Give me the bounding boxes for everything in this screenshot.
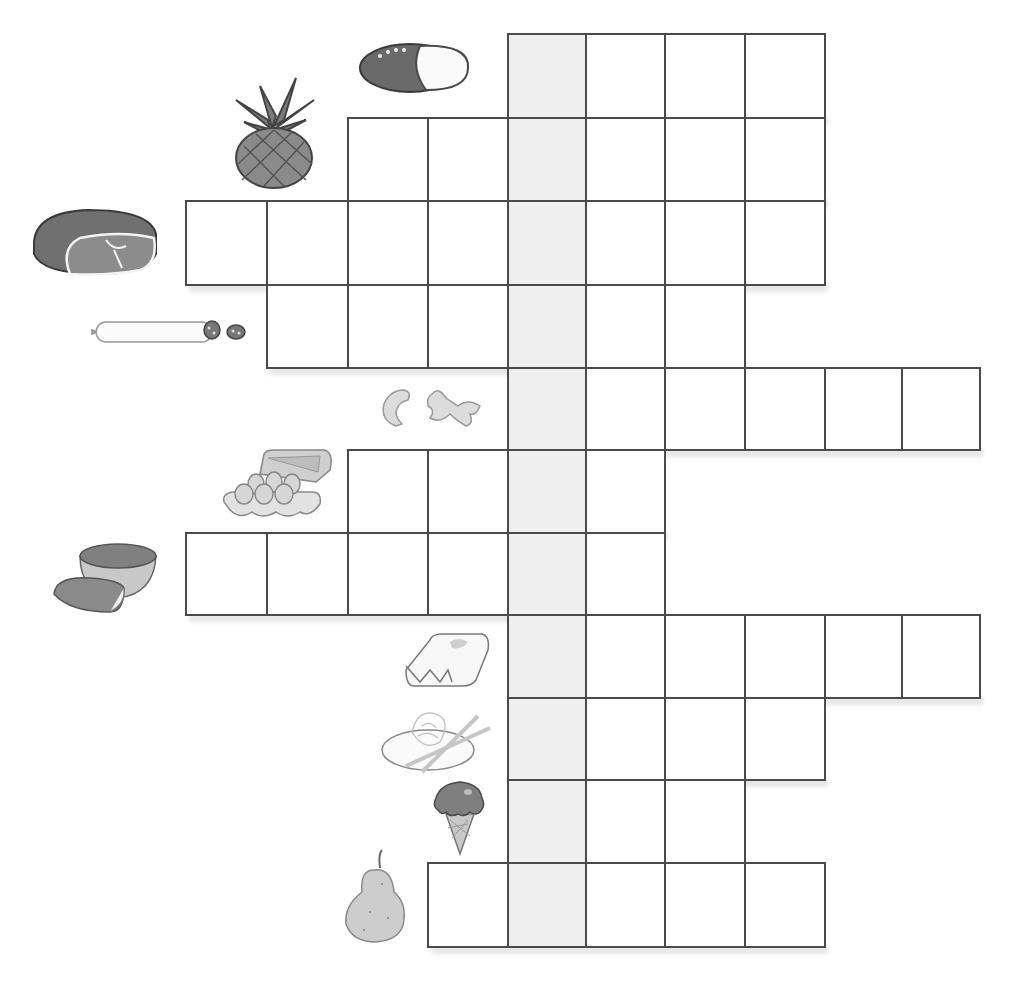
letter-input[interactable] [349,119,427,200]
letter-input[interactable] [666,864,744,946]
letter-input[interactable] [666,202,744,284]
letter-input[interactable] [509,369,585,449]
letter-cell[interactable] [664,614,746,699]
letter-input[interactable] [587,534,664,614]
letter-cell[interactable] [744,614,826,699]
letter-input[interactable] [509,864,585,946]
letter-cell[interactable] [427,532,509,616]
letter-input[interactable] [509,286,585,367]
letter-cell[interactable] [664,284,746,369]
letter-input[interactable] [746,369,824,449]
letter-input[interactable] [826,369,901,449]
letter-cell[interactable] [266,284,349,369]
solution-cell[interactable] [507,532,587,616]
letter-cell[interactable] [266,200,349,286]
letter-cell[interactable] [744,117,826,202]
letter-input[interactable] [826,616,901,697]
letter-cell[interactable] [585,614,666,699]
letter-input[interactable] [746,119,824,200]
letter-cell[interactable] [427,449,509,534]
letter-input[interactable] [268,286,347,367]
letter-input[interactable] [746,864,824,946]
letter-cell[interactable] [585,532,666,616]
letter-cell[interactable] [585,200,666,286]
letter-cell[interactable] [427,862,509,948]
letter-cell[interactable] [347,200,429,286]
letter-cell[interactable] [347,532,429,616]
solution-cell[interactable] [507,449,587,534]
letter-cell[interactable] [901,614,981,699]
letter-cell[interactable] [585,697,666,781]
letter-input[interactable] [903,616,979,697]
letter-cell[interactable] [347,449,429,534]
solution-cell[interactable] [507,862,587,948]
letter-input[interactable] [666,616,744,697]
letter-input[interactable] [666,35,744,117]
solution-cell[interactable] [507,200,587,286]
letter-input[interactable] [587,699,664,779]
letter-input[interactable] [349,451,427,532]
letter-cell[interactable] [585,779,666,864]
letter-cell[interactable] [664,200,746,286]
letter-input[interactable] [509,534,585,614]
letter-cell[interactable] [185,532,268,616]
letter-input[interactable] [349,286,427,367]
letter-cell[interactable] [744,33,826,119]
letter-cell[interactable] [664,117,746,202]
letter-cell[interactable] [664,779,746,864]
letter-cell[interactable] [824,367,903,451]
letter-cell[interactable] [585,862,666,948]
letter-input[interactable] [746,699,824,779]
letter-cell[interactable] [744,367,826,451]
letter-cell[interactable] [347,117,429,202]
letter-cell[interactable] [901,367,981,451]
letter-cell[interactable] [427,200,509,286]
letter-cell[interactable] [744,200,826,286]
letter-input[interactable] [587,616,664,697]
letter-input[interactable] [746,616,824,697]
solution-cell[interactable] [507,779,587,864]
letter-cell[interactable] [427,117,509,202]
letter-input[interactable] [587,864,664,946]
letter-cell[interactable] [744,862,826,948]
letter-cell[interactable] [266,532,349,616]
letter-cell[interactable] [585,449,666,534]
letter-cell[interactable] [585,367,666,451]
letter-input[interactable] [509,781,585,862]
letter-cell[interactable] [664,33,746,119]
letter-input[interactable] [509,451,585,532]
letter-input[interactable] [587,369,664,449]
letter-input[interactable] [509,699,585,779]
letter-cell[interactable] [427,284,509,369]
letter-input[interactable] [666,119,744,200]
letter-input[interactable] [349,534,427,614]
letter-cell[interactable] [185,200,268,286]
letter-input[interactable] [587,451,664,532]
letter-input[interactable] [429,534,507,614]
letter-input[interactable] [587,286,664,367]
letter-input[interactable] [268,534,347,614]
letter-input[interactable] [666,781,744,862]
solution-cell[interactable] [507,614,587,699]
letter-cell[interactable] [585,117,666,202]
letter-cell[interactable] [664,697,746,781]
solution-cell[interactable] [507,284,587,369]
solution-cell[interactable] [507,367,587,451]
solution-cell[interactable] [507,697,587,781]
letter-cell[interactable] [664,367,746,451]
letter-input[interactable] [666,699,744,779]
letter-input[interactable] [429,864,507,946]
letter-cell[interactable] [744,697,826,781]
letter-input[interactable] [187,202,266,284]
letter-cell[interactable] [664,862,746,948]
letter-input[interactable] [429,119,507,200]
letter-input[interactable] [587,202,664,284]
letter-input[interactable] [509,35,585,117]
letter-input[interactable] [587,119,664,200]
letter-input[interactable] [903,369,979,449]
solution-cell[interactable] [507,117,587,202]
letter-input[interactable] [509,616,585,697]
letter-input[interactable] [349,202,427,284]
letter-input[interactable] [746,35,824,117]
letter-input[interactable] [587,781,664,862]
